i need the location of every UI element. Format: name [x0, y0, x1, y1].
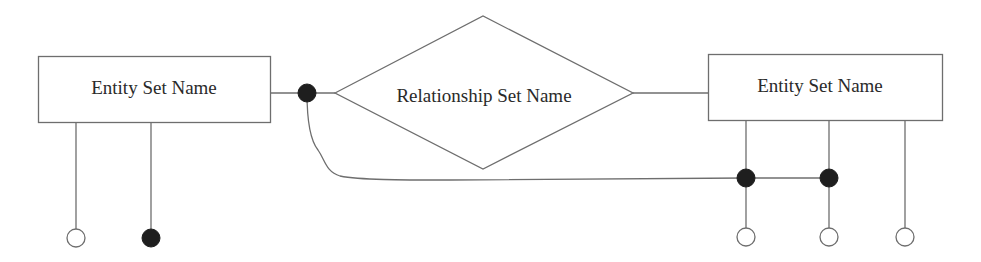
key-marker-right-attribute-2	[820, 169, 838, 187]
right-attribute-1-open-circle[interactable]	[737, 228, 755, 246]
er-diagram: Entity Set Name Relationship Set Name En…	[0, 0, 981, 262]
key-marker-right-attribute-1	[737, 169, 755, 187]
left-entity-label: Entity Set Name	[91, 77, 217, 98]
left-attribute-1-open-circle[interactable]	[67, 229, 85, 247]
right-attribute-3-open-circle[interactable]	[896, 228, 914, 246]
relationship-label: Relationship Set Name	[396, 85, 571, 106]
right-attribute-2-open-circle[interactable]	[820, 228, 838, 246]
key-marker-relationship-link	[298, 84, 316, 102]
right-entity[interactable]: Entity Set Name	[709, 55, 943, 121]
relationship[interactable]: Relationship Set Name	[335, 16, 633, 169]
left-entity[interactable]: Entity Set Name	[39, 57, 271, 123]
left-attribute-2-filled-circle[interactable]	[142, 229, 160, 247]
right-entity-label: Entity Set Name	[757, 75, 883, 96]
